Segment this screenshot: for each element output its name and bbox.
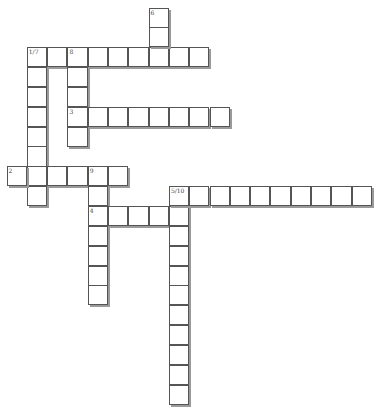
crossword-cell[interactable] [189,47,209,67]
crossword-cell[interactable] [27,166,47,186]
crossword-cell[interactable] [88,107,108,127]
crossword-cell[interactable] [169,266,189,286]
crossword-cell[interactable] [169,305,189,325]
crossword-cell[interactable] [108,47,128,67]
crossword-cell[interactable] [311,186,331,206]
crossword-cell[interactable] [169,285,189,305]
crossword-cell[interactable] [27,186,47,206]
crossword-cell[interactable] [169,107,189,127]
crossword-cell[interactable] [169,325,189,345]
clue-number: 6 [151,9,155,16]
crossword-cell[interactable] [210,107,230,127]
crossword-cell[interactable] [189,186,209,206]
crossword-cell[interactable] [149,206,169,226]
crossword-cell[interactable] [108,107,128,127]
crossword-cell[interactable] [230,186,250,206]
crossword-cell[interactable] [128,206,148,226]
crossword-cell[interactable] [169,385,189,405]
crossword-cell[interactable] [169,246,189,266]
clue-number: 1/7 [29,48,39,55]
crossword-cell[interactable] [149,27,169,47]
crossword-cell[interactable] [250,186,270,206]
crossword-cell[interactable] [88,186,108,206]
crossword-cell[interactable] [128,47,148,67]
crossword-cell[interactable] [169,345,189,365]
crossword-cell[interactable]: 3 [67,107,87,127]
crossword-cell[interactable] [27,87,47,107]
crossword-cell[interactable] [149,107,169,127]
crossword-cell[interactable] [108,166,128,186]
crossword-cell[interactable] [189,107,209,127]
crossword-cell[interactable] [169,47,189,67]
crossword-cell[interactable]: 5/10 [169,186,189,206]
crossword-cell[interactable]: 2 [7,166,27,186]
crossword-cell[interactable] [47,47,67,67]
crossword-cell[interactable] [169,226,189,246]
crossword-cell[interactable] [331,186,351,206]
crossword-cell[interactable]: 6 [149,8,169,28]
crossword-cell[interactable] [210,186,230,206]
crossword-cell[interactable] [169,365,189,385]
crossword-cell[interactable] [352,186,372,206]
crossword-cell[interactable] [27,67,47,87]
crossword-cell[interactable] [291,186,311,206]
crossword-cell[interactable]: 8 [67,47,87,67]
crossword-cell[interactable]: 1/7 [27,47,47,67]
clue-number: 8 [69,48,73,55]
crossword-cell[interactable] [149,47,169,67]
crossword-cell[interactable] [67,67,87,87]
crossword-cell[interactable] [88,47,108,67]
crossword-cell[interactable] [67,166,87,186]
crossword-cell[interactable] [88,266,108,286]
crossword-cell[interactable]: 4 [88,206,108,226]
crossword-cell[interactable] [169,206,189,226]
crossword-cell[interactable] [88,246,108,266]
clue-number: 3 [69,108,73,115]
crossword-cell[interactable] [27,107,47,127]
crossword-cell[interactable] [27,146,47,166]
crossword-cell[interactable] [67,87,87,107]
clue-number: 4 [90,207,94,214]
clue-number: 9 [90,167,94,174]
crossword-cell[interactable] [47,166,67,186]
crossword-cell[interactable] [67,127,87,147]
crossword-cell[interactable] [108,206,128,226]
crossword-cell[interactable] [88,226,108,246]
clue-number: 5/10 [171,187,184,194]
clue-number: 2 [9,167,13,174]
crossword-cell[interactable] [27,127,47,147]
crossword-cell[interactable] [88,285,108,305]
crossword-cell[interactable] [270,186,290,206]
crossword-grid: 1/78362945/10 [0,0,380,408]
crossword-cell[interactable]: 9 [88,166,108,186]
crossword-cell[interactable] [128,107,148,127]
